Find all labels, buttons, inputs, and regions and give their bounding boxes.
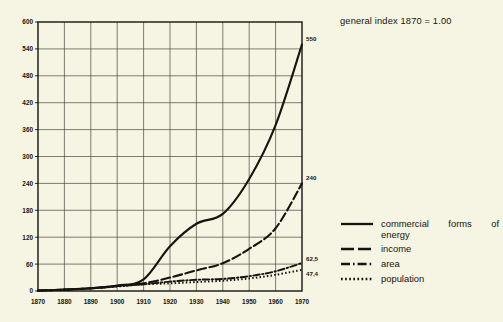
y-tick-label: 420 — [22, 99, 33, 106]
x-axis-tick-labels: 1870188018901900191019201930194019501960… — [31, 298, 310, 305]
legend-key-dotted-icon — [340, 273, 374, 285]
y-tick-label: 120 — [22, 234, 33, 241]
legend-item-income: income — [340, 243, 500, 255]
y-tick-label: 360 — [22, 126, 33, 133]
legend-key-dashdot-icon — [340, 258, 374, 270]
legend-item-population: population — [340, 273, 500, 285]
y-tick-label: 600 — [22, 18, 33, 25]
end-label-area: 62,5 — [306, 255, 319, 262]
y-tick-label: 60 — [26, 261, 34, 268]
legend-label-population: population — [381, 273, 424, 285]
x-tick-label: 1870 — [31, 298, 46, 305]
y-tick-label: 0 — [29, 287, 33, 294]
end-label-energy: 550 — [306, 35, 317, 42]
x-tick-label: 1930 — [189, 298, 204, 305]
legend-label-energy: commercial forms of energy — [381, 218, 499, 240]
x-tick-label: 1970 — [295, 298, 310, 305]
x-tick-label: 1940 — [216, 298, 231, 305]
legend-item-area: area — [340, 258, 500, 270]
series-end-labels: 55024062,547,4 — [306, 35, 319, 276]
x-tick-label: 1880 — [57, 298, 72, 305]
x-tick-label: 1910 — [136, 298, 151, 305]
chart-legend: commercial forms of energy income area p… — [340, 218, 500, 288]
y-tick-label: 180 — [22, 207, 33, 214]
x-tick-label: 1920 — [163, 298, 178, 305]
y-tick-label: 240 — [22, 180, 33, 187]
end-label-income: 240 — [306, 174, 317, 181]
x-tick-label: 1950 — [242, 298, 257, 305]
legend-label-area: area — [381, 258, 400, 270]
end-label-population: 47,4 — [306, 270, 319, 277]
legend-key-dashed-icon — [340, 243, 374, 255]
y-tick-label: 480 — [22, 72, 33, 79]
y-tick-label: 300 — [22, 153, 33, 160]
y-axis-tick-labels: 060120180240300360420480540600 — [22, 18, 38, 294]
general-index-note: general index 1870 = 1.00 — [340, 16, 452, 26]
chart-figure: 060120180240300360420480540600 187018801… — [0, 0, 503, 322]
x-tick-label: 1960 — [268, 298, 283, 305]
legend-label-income: income — [381, 243, 411, 255]
legend-label-energy-line2: energy — [381, 229, 410, 240]
legend-item-energy: commercial forms of energy — [340, 218, 500, 240]
x-tick-label: 1900 — [110, 298, 125, 305]
legend-key-solid-icon — [340, 218, 374, 230]
y-tick-label: 540 — [22, 45, 33, 52]
x-tick-label: 1890 — [84, 298, 99, 305]
